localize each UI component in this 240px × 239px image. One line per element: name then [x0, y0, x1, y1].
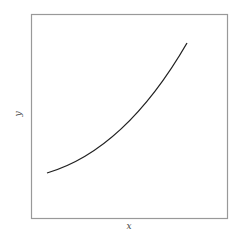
y-axis-label: y: [13, 111, 23, 118]
data-curve: [47, 43, 187, 173]
chart: x y: [0, 0, 240, 239]
plot-frame: [32, 15, 228, 219]
x-axis-label: x: [126, 221, 131, 231]
